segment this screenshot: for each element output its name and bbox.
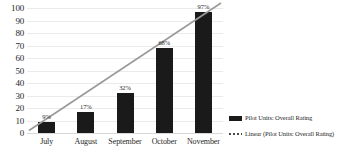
y-axis-tick-labels: 1009080706050403020100: [0, 8, 24, 133]
gridline: [27, 133, 223, 134]
bar-value-label: 68%: [152, 39, 176, 46]
legend-item[interactable]: Linear (Pilot Units: Overall Rating): [229, 126, 354, 142]
y-axis-tick-label: 30: [0, 91, 24, 100]
y-axis-tick-label: 20: [0, 104, 24, 113]
plot-area: 9%17%32%68%97%: [27, 8, 223, 133]
legend-trendline-swatch-icon: [229, 133, 242, 136]
bar-value-label: 17%: [74, 103, 98, 110]
x-axis-category-label: November: [179, 137, 227, 147]
legend-item[interactable]: Pilot Units: Overall Rating: [229, 110, 354, 126]
y-axis-tick-label: 40: [0, 79, 24, 88]
bar-value-label: 97%: [191, 3, 215, 10]
y-axis-tick-label: 70: [0, 41, 24, 50]
plot-wrapper: 1009080706050403020100 9%17%32%68%97% Ju…: [0, 0, 228, 156]
y-axis-tick-label: 60: [0, 54, 24, 63]
chart-container: 1009080706050403020100 9%17%32%68%97% Ju…: [0, 0, 354, 156]
x-axis-category-labels: JulyAugustSeptemberOctoberNovember: [27, 137, 223, 151]
y-axis-tick-label: 0: [0, 129, 24, 138]
legend-bar-swatch-icon: [229, 116, 242, 121]
y-axis-tick-label: 80: [0, 29, 24, 38]
bar-value-label: 32%: [113, 84, 137, 91]
chart-legend: Pilot Units: Overall RatingLinear (Pilot…: [229, 110, 354, 142]
bar-value-labels: 9%17%32%68%97%: [27, 8, 223, 133]
y-axis-tick-label: 90: [0, 16, 24, 25]
bar-value-label: 9%: [35, 113, 59, 120]
y-axis-tick-label: 100: [0, 4, 24, 13]
legend-item-label: Linear (Pilot Units: Overall Rating): [245, 130, 334, 138]
y-axis-tick-label: 10: [0, 116, 24, 125]
y-axis-tick-label: 50: [0, 66, 24, 75]
legend-item-label: Pilot Units: Overall Rating: [245, 114, 312, 122]
